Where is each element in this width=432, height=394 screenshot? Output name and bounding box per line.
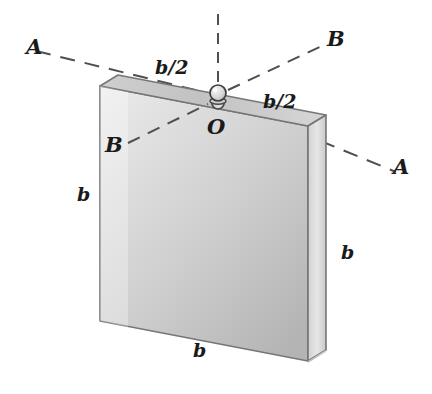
label-height-left: b	[77, 185, 90, 204]
plate-front-face	[100, 86, 308, 361]
label-half-width-right: b/2	[263, 92, 296, 111]
label-axis-b-lower-left: B	[105, 134, 123, 155]
label-height-right: b	[341, 243, 354, 262]
plate-diagram-svg	[0, 0, 432, 394]
label-half-width-left: b/2	[155, 58, 188, 77]
label-axis-b-upper-right: B	[327, 28, 345, 49]
plate-right-edge	[308, 115, 326, 361]
label-axis-a-right: A	[393, 156, 409, 177]
label-width-bottom: b	[193, 341, 206, 360]
plate-face-shading	[100, 86, 128, 327]
pin-at-O	[210, 85, 226, 109]
label-origin: O	[207, 116, 225, 137]
label-axis-a-left: A	[26, 36, 42, 57]
figure-canvas: A A B B O b/2 b/2 b b b	[0, 0, 432, 394]
